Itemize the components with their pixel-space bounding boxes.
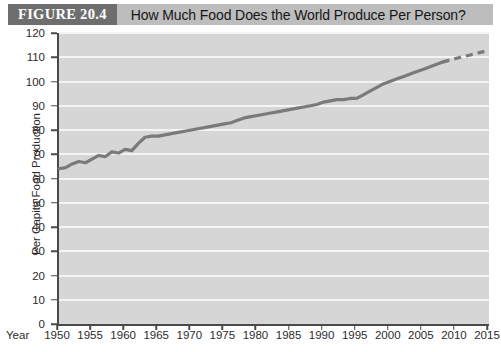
x-axis-tick	[122, 324, 124, 330]
x-axis-tick	[387, 324, 389, 330]
y-axis-tick-label: 70	[32, 148, 45, 160]
figure-number-label: FIGURE 20.4	[8, 4, 117, 25]
data-line-group	[59, 33, 489, 324]
x-axis-tick-label: 1980	[243, 329, 269, 341]
y-axis-tick	[51, 81, 57, 83]
y-axis-tick	[51, 299, 57, 301]
data-line-projection	[443, 50, 489, 62]
figure-title: How Much Food Does the World Produce Per…	[117, 4, 493, 25]
figure-header: FIGURE 20.4 How Much Food Does the World…	[8, 4, 493, 25]
x-axis-tick-label: 2010	[441, 329, 467, 341]
x-axis-tick	[354, 324, 356, 330]
y-axis-tick	[51, 251, 57, 253]
x-axis-tick	[189, 324, 191, 330]
y-axis-tick-label: 10	[32, 294, 45, 306]
x-axis-tick	[288, 324, 290, 330]
x-axis-tick	[321, 324, 323, 330]
x-axis-tick-label: 1955	[77, 329, 103, 341]
x-axis-tick-label: 2005	[408, 329, 434, 341]
x-axis-tick-label: 1960	[110, 329, 136, 341]
y-axis-tick-label: 90	[32, 100, 45, 112]
y-axis-tick	[51, 57, 57, 59]
x-axis-tick-label: 2015	[474, 329, 500, 341]
y-axis-labels: 0102030405060708090100110120	[0, 33, 50, 324]
x-axis-tick-label: 1975	[210, 329, 236, 341]
x-axis-tick	[56, 324, 58, 330]
y-axis-tick	[51, 129, 57, 131]
x-axis-tick-label: 1990	[309, 329, 335, 341]
y-axis-tick-label: 60	[32, 173, 45, 185]
y-axis-tick-label: 120	[26, 27, 45, 39]
y-axis-tick	[51, 178, 57, 180]
y-axis-tick-label: 20	[32, 270, 45, 282]
plot-area	[57, 33, 489, 326]
x-axis-tick	[222, 324, 224, 330]
y-axis-tick-label: 110	[27, 51, 45, 63]
y-axis-tick	[51, 226, 57, 228]
chart-container: Per Capita Food Production 0102030405060…	[0, 26, 501, 352]
x-axis-tick-label: 1965	[143, 329, 169, 341]
x-axis-tick-label: 1985	[276, 329, 302, 341]
x-axis-tick	[453, 324, 455, 330]
y-axis-tick-label: 40	[32, 221, 45, 233]
x-axis-tick-label: 1970	[177, 329, 203, 341]
x-axis-tick-label: 1950	[44, 329, 70, 341]
y-axis-tick	[51, 32, 57, 34]
x-axis-title: Year	[6, 329, 29, 341]
x-axis-tick	[155, 324, 157, 330]
y-axis-tick-label: 50	[32, 197, 45, 209]
x-axis-tick-label: 1995	[342, 329, 368, 341]
y-axis-tick	[51, 154, 57, 156]
x-axis-tick	[420, 324, 422, 330]
x-axis-labels: Year 19501955196019651970197519801985199…	[0, 329, 501, 349]
y-axis-tick	[51, 275, 57, 277]
x-axis-tick	[486, 324, 488, 330]
y-axis-tick-label: 30	[32, 245, 45, 257]
y-axis-tick-label: 100	[26, 76, 45, 88]
y-axis-tick	[51, 202, 57, 204]
data-line-observed	[59, 62, 443, 169]
x-axis-tick-label: 2000	[375, 329, 401, 341]
x-axis-tick	[255, 324, 257, 330]
y-axis-tick-label: 80	[32, 124, 45, 136]
y-axis-tick	[51, 105, 57, 107]
x-axis-tick	[89, 324, 91, 330]
